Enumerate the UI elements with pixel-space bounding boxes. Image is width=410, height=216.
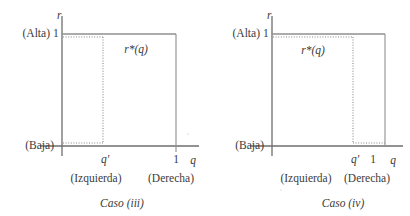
y-bottom-qualifier-label: (Baja) xyxy=(25,140,54,152)
y-axis-name-label: r xyxy=(267,10,271,22)
x-tick-label-one: 1 xyxy=(370,154,376,166)
y-axis-name-label: r xyxy=(57,10,61,22)
x-axis-name-label: q xyxy=(190,155,196,167)
y-top-tick-label: 1 xyxy=(53,28,59,40)
figure-two-panel-plots: r (Alta) 1 (Baja) q' 1 q (Izquierda) (De… xyxy=(0,0,410,216)
x-tick-label-q-prime: q' xyxy=(101,154,109,166)
y-bottom-qualifier-label: (Baja) xyxy=(235,140,264,152)
curve-label-rstar: r*(q) xyxy=(301,45,325,57)
panel-caption-caso-iii: Caso (iii) xyxy=(100,198,144,210)
scan-artifact-dot xyxy=(280,189,281,190)
curve-label-rstar: r*(q) xyxy=(124,44,148,56)
plot-panel-caso-iv: r (Alta) 1 (Baja) q' 1 q (Izquierda) (De… xyxy=(205,0,410,216)
panel-caption-caso-iv: Caso (iv) xyxy=(322,198,364,210)
x-left-qualifier-label: (Izquierda) xyxy=(70,173,121,185)
x-tick-label-one: 1 xyxy=(173,154,179,166)
x-right-qualifier-label: (Derecha) xyxy=(148,173,194,185)
x-tick-label-q-prime: q' xyxy=(351,154,359,166)
plot-panel-caso-iii: r (Alta) 1 (Baja) q' 1 q (Izquierda) (De… xyxy=(0,0,205,216)
y-top-qualifier-label: (Alta) xyxy=(233,28,260,40)
x-right-qualifier-label: (Derecha) xyxy=(344,173,390,185)
y-top-tick-label: 1 xyxy=(263,28,269,40)
x-axis-name-label: q xyxy=(390,155,396,167)
x-left-qualifier-label: (Izquierda) xyxy=(280,173,331,185)
scan-artifact-dot xyxy=(187,133,188,134)
y-top-qualifier-label: (Alta) xyxy=(23,28,50,40)
